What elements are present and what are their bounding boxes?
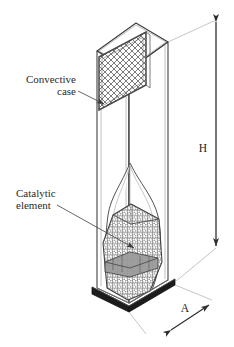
catalytic-element-label-line1: Catalytic xyxy=(16,187,56,199)
label-convective-case: Convective case xyxy=(26,73,76,97)
convective-case-label-line2: case xyxy=(57,85,76,97)
figure-root: H A Convective case xyxy=(0,0,234,347)
height-extension-bottom xyxy=(175,248,216,282)
catalytic-element-label-line2: element xyxy=(16,199,51,211)
depth-dimension-label: A xyxy=(181,302,190,314)
convective-case-label-line1: Convective xyxy=(26,73,76,85)
label-catalytic-element: Catalytic element xyxy=(16,187,56,211)
technical-diagram: H A Convective case xyxy=(0,0,234,347)
depth-extension-right xyxy=(175,285,212,300)
depth-extension-left xyxy=(129,312,146,334)
height-dimension-label: H xyxy=(199,142,207,154)
height-extension-top xyxy=(168,20,216,42)
dimension-height: H xyxy=(168,20,216,282)
depth-dimension-line xyxy=(171,305,209,330)
diagram-body: H A Convective case xyxy=(16,20,216,334)
